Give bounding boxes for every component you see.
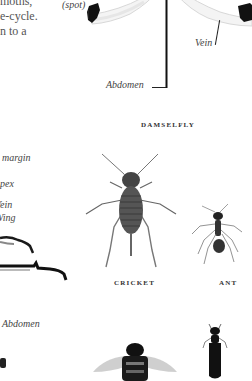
label-apex: Apex <box>0 178 14 189</box>
label-vein-damselfly: Vein <box>195 37 212 48</box>
label-abdomen-damselfly: Abdomen <box>106 79 144 90</box>
fly-icon <box>90 342 180 381</box>
intro-line-3: n to a <box>0 24 27 39</box>
abdomen-leader-line <box>152 87 166 88</box>
label-margin: margin <box>2 152 31 163</box>
ant-icon <box>190 204 245 269</box>
cricket-icon <box>84 152 179 272</box>
label-vein-left: Vein <box>0 199 12 210</box>
ant-illustration <box>190 204 245 269</box>
stag-beetle-legs-illustration <box>0 228 75 283</box>
caption-damselfly: DAMSELFLY <box>141 121 195 129</box>
intro-line-1: moths, <box>0 0 32 9</box>
label-wing: Wing <box>0 212 16 223</box>
label-abdomen-left: Abdomen <box>2 318 40 329</box>
beetle-legs-icon <box>0 228 75 283</box>
fly-illustration <box>90 342 180 381</box>
caption-cricket: CRICKET <box>114 279 155 287</box>
rove-beetle-illustration <box>200 324 230 381</box>
beetle-icon <box>200 324 230 381</box>
label-spot: (spot) <box>62 0 85 10</box>
intro-line-2: e-cycle. <box>0 9 38 24</box>
spot-leader-line <box>88 10 89 19</box>
cricket-illustration <box>84 152 179 272</box>
partial-insect-fragment <box>0 358 6 368</box>
caption-ant: ANT <box>219 279 237 287</box>
